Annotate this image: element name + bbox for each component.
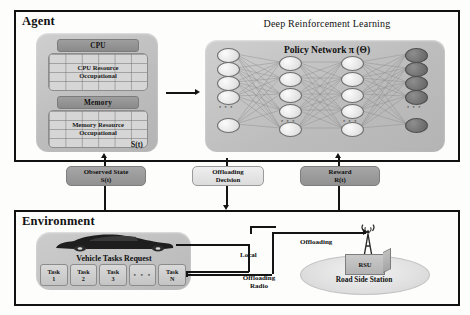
task-box-2-line1: Task [77, 268, 90, 275]
network-ellipsis-hidden1: • • • [281, 118, 295, 124]
offloading-label: Offloading [300, 238, 332, 246]
network-ellipsis-input: • • • [219, 104, 233, 110]
memory-header: Memory [57, 96, 139, 109]
local-line-bottom [186, 271, 249, 273]
network-node-output-5 [405, 118, 428, 133]
task-box-3-line2: 3 [111, 275, 114, 282]
task-box-4: • • • [129, 264, 157, 286]
offloading-decision-box: Offloading Decision [192, 166, 264, 186]
observed-state-box: Observed State S(t) [66, 166, 146, 186]
state-to-network-line [166, 92, 196, 94]
network-node-hidden2-1 [341, 56, 364, 71]
network-node-hidden1-3 [279, 88, 302, 103]
network-node-output-1 [405, 48, 428, 63]
drl-title: Deep Reinforcement Learning [232, 18, 422, 29]
reward-arrowhead [335, 153, 341, 158]
offloading-line-horizontal [272, 232, 366, 234]
reward-box: Reward R(t) [300, 166, 380, 186]
offloading-step-line [250, 226, 276, 228]
offloading-decision-line1: Offloading [212, 168, 243, 176]
task-box-1-line1: Task [48, 268, 61, 275]
network-ellipsis-hidden2: • • • [343, 118, 357, 124]
network-ellipsis-output: • • • [407, 104, 421, 110]
task-box-4-line1: • • • [133, 271, 151, 279]
offloading-step-riser [250, 226, 252, 234]
memory-grid-line1: Memory Resource [72, 121, 124, 129]
task-box-5-line2: N [170, 275, 174, 282]
network-node-input-2 [217, 62, 240, 77]
observed-state-line1: Observed State [84, 168, 128, 176]
task-box-2: Task2 [70, 264, 98, 286]
network-node-hidden1-1 [279, 56, 302, 71]
network-node-input-1 [217, 48, 240, 63]
observed-state-line-bottom [104, 184, 106, 210]
environment-title: Environment [22, 214, 95, 229]
cpu-grid-line1: CPU Resource [77, 64, 118, 72]
diagram-canvas: Agent CPU CPU Resource Occupational Memo… [0, 0, 470, 315]
policy-network-graph: • • •• • •• • •• • • [205, 40, 445, 152]
offloading-decision-line2: Decision [216, 176, 241, 184]
network-node-hidden2-2 [341, 72, 364, 87]
network-node-output-2 [405, 62, 428, 77]
network-node-output-4 [405, 90, 428, 105]
reward-line2: R(t) [334, 176, 346, 184]
task-box-2-line2: 2 [82, 275, 85, 282]
cpu-grid-label: CPU Resource Occupational [49, 54, 147, 90]
road-side-station-label: Road Side Station [300, 275, 428, 284]
local-label: Local [240, 251, 257, 259]
antenna-icon [355, 224, 381, 256]
state-time-label: S(t) [131, 140, 143, 149]
agent-title: Agent [22, 14, 55, 29]
observed-state-arrowhead [101, 153, 107, 158]
cpu-header: CPU [57, 39, 139, 52]
network-node-input-5 [217, 118, 240, 133]
state-to-network-arrowhead [195, 89, 200, 95]
network-node-input-3 [217, 76, 240, 91]
offloading-decision-line-bottom [226, 184, 228, 205]
task-box-1-line2: 1 [52, 275, 55, 282]
offloading-radio-line2: Radio [228, 282, 290, 290]
network-node-hidden1-4 [279, 104, 302, 119]
task-row: Task1Task2Task3• • •TaskN [40, 264, 186, 286]
offloading-line-vertical [272, 232, 274, 274]
reward-line-bottom [338, 184, 340, 210]
vehicle-tasks-request-label: Vehicle Tasks Request [44, 254, 184, 263]
task-box-3-line1: Task [107, 268, 120, 275]
rsu-box: RSU [345, 254, 385, 275]
task-box-3: Task3 [99, 264, 127, 286]
task-box-5: TaskN [158, 264, 186, 286]
offloading-radio-label: Offloading Radio [228, 274, 290, 291]
memory-grid-line2: Occupational [79, 129, 117, 137]
cpu-resource-grid: CPU Resource Occupational [48, 53, 148, 91]
task-box-1: Task1 [40, 264, 68, 286]
observed-state-line2: S(t) [101, 176, 112, 184]
network-node-hidden2-4 [341, 104, 364, 119]
network-node-input-4 [217, 90, 240, 105]
reward-line1: Reward [328, 168, 351, 176]
network-node-hidden2-3 [341, 88, 364, 103]
offloading-radio-line1: Offloading [228, 274, 290, 282]
vehicle-icon [52, 234, 176, 252]
local-line-top [176, 244, 250, 246]
task-box-5-line1: Task [166, 268, 179, 275]
network-node-output-3 [405, 76, 428, 91]
network-node-hidden1-2 [279, 72, 302, 87]
cpu-grid-line2: Occupational [79, 72, 117, 80]
